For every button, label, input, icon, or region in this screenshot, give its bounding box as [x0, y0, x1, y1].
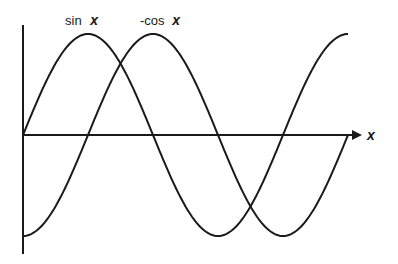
neg-cos-label-fn: -cos [140, 13, 165, 28]
x-axis-label: x [366, 127, 376, 143]
sin-label-fn: sin [65, 13, 82, 28]
neg-cos-label: -cos x [140, 12, 181, 28]
sin-label-var: x [89, 12, 99, 28]
sin-label: sin x [65, 12, 99, 28]
sine-cosine-chart: x sin x -cos x [0, 0, 398, 264]
x-axis-arrow-icon [352, 130, 362, 140]
neg-cos-label-var: x [171, 12, 181, 28]
